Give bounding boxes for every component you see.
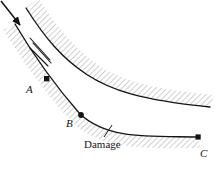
flow-direction-arrow xyxy=(1,1,20,25)
marker-point-a xyxy=(44,76,49,81)
label-damage: Damage xyxy=(84,139,121,150)
label-point-a: A xyxy=(26,84,33,95)
marker-point-c xyxy=(196,134,201,139)
marker-point-b xyxy=(78,112,84,118)
label-point-c: C xyxy=(200,148,207,159)
figure-container: A B C Damage xyxy=(0,0,216,170)
label-point-b: B xyxy=(66,118,73,129)
